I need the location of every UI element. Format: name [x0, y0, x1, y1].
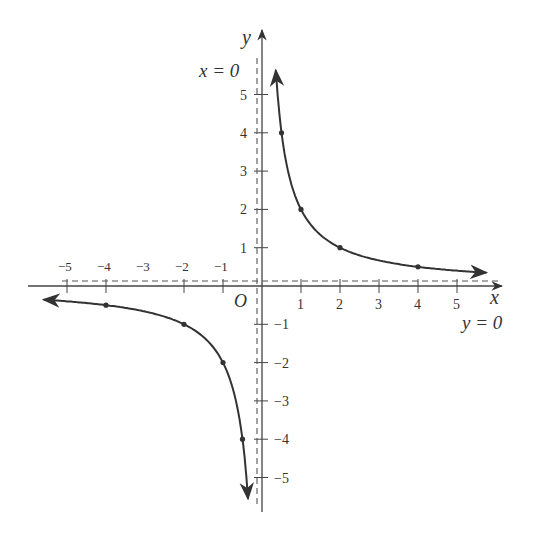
chart-container: y x O x = 0 y = 0 −5−4−3−2−112345−5−4−3−… [0, 0, 538, 539]
x-tick-label: 3 [375, 297, 382, 312]
curves [44, 70, 487, 499]
y-tick-label: 1 [240, 241, 247, 256]
x-axis-label: x [489, 286, 499, 308]
data-point [415, 264, 420, 269]
x-tick-label: −4 [97, 259, 111, 274]
x-tick-label: −2 [175, 259, 189, 274]
y-tick-label: −4 [274, 432, 289, 447]
y-tick-label: −1 [274, 317, 289, 332]
data-point [181, 322, 186, 327]
vertical-asymptote-label: x = 0 [198, 60, 240, 81]
y-tick-label: 5 [240, 88, 247, 103]
x-tick-label: 4 [414, 297, 421, 312]
data-point [103, 303, 108, 308]
y-tick-label: −2 [274, 356, 289, 371]
curve-branch-negative [44, 300, 248, 499]
x-tick-label: −3 [136, 259, 150, 274]
x-tick-label: 5 [453, 297, 460, 312]
origin-label: O [234, 291, 247, 311]
y-tick-label: 4 [240, 126, 247, 141]
x-tick-label: −1 [214, 259, 228, 274]
data-point [337, 245, 342, 250]
y-tick-label: −3 [274, 394, 289, 409]
y-tick-label: 2 [240, 202, 247, 217]
curve-branch-positive [276, 70, 487, 273]
y-tick-label: −5 [274, 471, 289, 486]
x-tick-label: −5 [58, 259, 72, 274]
labels: y x O x = 0 y = 0 −5−4−3−2−112345−5−4−3−… [58, 26, 503, 486]
y-tick-label: 3 [240, 164, 247, 179]
data-point [220, 360, 225, 365]
data-point [298, 207, 303, 212]
data-point [240, 437, 245, 442]
horizontal-asymptote-label: y = 0 [460, 312, 503, 333]
data-point [279, 130, 284, 135]
y-axis-label: y [240, 26, 251, 49]
x-tick-label: 1 [297, 297, 304, 312]
x-tick-label: 2 [336, 297, 343, 312]
hyperbola-plot: y x O x = 0 y = 0 −5−4−3−2−112345−5−4−3−… [0, 0, 538, 539]
